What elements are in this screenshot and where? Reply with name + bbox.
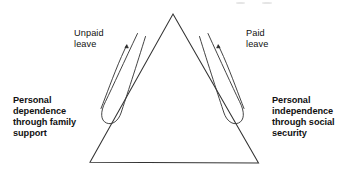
label-paid-leave: Paid leave [246, 28, 290, 50]
label-unpaid-leave: Unpaid leave [74, 28, 120, 50]
left-arrow-head-icon [125, 45, 129, 48]
label-personal-dependence: Personal dependence through family suppo… [13, 95, 91, 138]
label-personal-independence: Personal independence through social sec… [272, 95, 352, 138]
right-hairpin-curve [200, 34, 244, 124]
diagram-canvas: Unpaid leave Paid leave Personal depende… [0, 0, 352, 170]
left-arrow-line [101, 46, 127, 109]
diagram-svg [0, 0, 352, 170]
scan-artifact [236, 2, 245, 4]
right-arrow-head-icon [217, 45, 221, 48]
scan-artifact [262, 2, 272, 4]
